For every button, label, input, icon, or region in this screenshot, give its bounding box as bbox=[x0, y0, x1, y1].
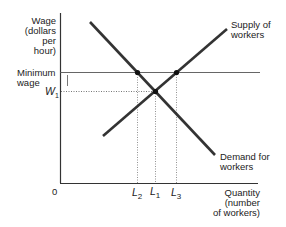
w1-subscript: 1 bbox=[55, 92, 59, 99]
supply-min-wage-point bbox=[174, 70, 179, 75]
origin-label: 0 bbox=[52, 187, 57, 197]
x-axis-label: Quantity (number of workers) bbox=[204, 188, 260, 218]
demand-label-line: workers bbox=[220, 162, 270, 172]
supply-label-line: workers bbox=[231, 30, 271, 40]
y-axis-label-line: hour) bbox=[14, 46, 56, 56]
l3-subscript: 3 bbox=[177, 192, 181, 201]
w1-letter: W bbox=[45, 85, 55, 97]
x-axis-label-line: of workers) bbox=[204, 208, 260, 218]
supply-curve bbox=[103, 29, 227, 136]
w1-label: W1 bbox=[45, 86, 59, 101]
demand-curve bbox=[90, 22, 215, 155]
y-axis-label: Wage (dollars per hour) bbox=[14, 16, 56, 56]
demand-label: Demand for workers bbox=[220, 152, 270, 172]
l1-subscript: 1 bbox=[156, 191, 160, 200]
l1-label: L1 bbox=[150, 186, 160, 201]
l2-subscript: 2 bbox=[138, 192, 142, 201]
equilibrium-point bbox=[153, 89, 158, 94]
demand-min-wage-point bbox=[135, 70, 140, 75]
supply-label: Supply of workers bbox=[231, 20, 271, 40]
l2-label: L2 bbox=[132, 187, 142, 202]
l3-label: L3 bbox=[171, 187, 181, 202]
